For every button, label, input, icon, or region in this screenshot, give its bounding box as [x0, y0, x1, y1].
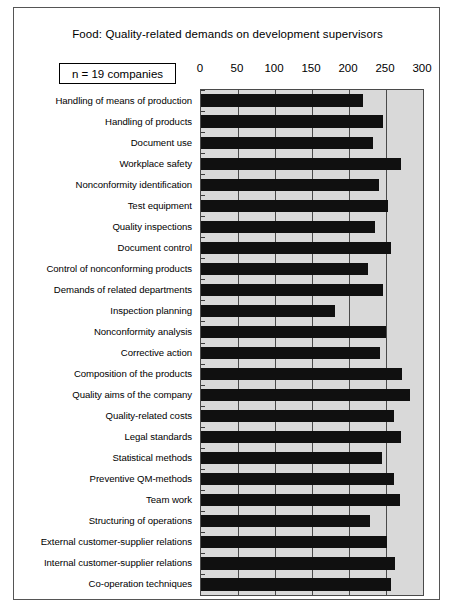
category-label: Statistical methods — [112, 452, 192, 463]
category-label: Inspection planning — [110, 304, 192, 315]
bar — [201, 431, 401, 443]
y-tick-mark — [201, 237, 205, 238]
category-label: Demands of related departments — [54, 283, 192, 294]
plot-area — [200, 89, 424, 596]
bar — [201, 200, 388, 212]
x-tick-label: 200 — [338, 62, 357, 74]
category-label: Nonconformity identification — [76, 178, 192, 189]
category-label: External customer-supplier relations — [41, 536, 192, 547]
bar — [201, 179, 379, 191]
y-tick-mark — [201, 343, 205, 344]
category-label: Team work — [146, 494, 192, 505]
y-tick-mark — [201, 321, 205, 322]
x-tick-label: 300 — [412, 62, 431, 74]
y-tick-mark — [201, 132, 205, 133]
x-tick-label: 0 — [197, 62, 203, 74]
x-tick-label: 100 — [264, 62, 283, 74]
y-tick-mark — [201, 427, 205, 428]
category-label: Document control — [118, 241, 192, 252]
category-label: Preventive QM-methods — [90, 473, 192, 484]
bar — [201, 326, 386, 338]
bar — [201, 242, 391, 254]
category-label: Handling of products — [105, 115, 192, 126]
bar — [201, 137, 373, 149]
bar — [201, 305, 335, 317]
bar — [201, 515, 370, 527]
bar — [201, 347, 380, 359]
bar — [201, 557, 395, 569]
bar — [201, 115, 383, 127]
category-label: Quality aims of the company — [72, 389, 192, 400]
category-label: Structuring of operations — [89, 515, 192, 526]
bar — [201, 94, 363, 106]
category-label: Internal customer-supplier relations — [44, 557, 192, 568]
y-tick-mark — [201, 406, 205, 407]
bar — [201, 389, 410, 401]
y-tick-mark — [201, 174, 205, 175]
category-label: Composition of the products — [74, 368, 192, 379]
y-tick-mark — [201, 448, 205, 449]
category-label: Nonconformity analysis — [94, 325, 192, 336]
y-tick-mark — [201, 195, 205, 196]
y-tick-mark — [201, 532, 205, 533]
bar — [201, 263, 368, 275]
y-tick-mark — [201, 553, 205, 554]
category-label: Quality-related costs — [106, 410, 192, 421]
y-tick-mark — [201, 385, 205, 386]
category-label: Quality inspections — [112, 220, 192, 231]
bar — [201, 473, 394, 485]
y-tick-mark — [201, 574, 205, 575]
x-axis-tick-labels: 050100150200250300 — [14, 62, 441, 84]
category-label: Co-operation techniques — [89, 578, 192, 589]
bar — [201, 578, 391, 590]
bar — [201, 452, 382, 464]
chart-title: Food: Quality-related demands on develop… — [14, 28, 441, 40]
category-label: Document use — [131, 136, 192, 147]
bar — [201, 368, 402, 380]
category-label: Corrective action — [121, 347, 192, 358]
bar — [201, 536, 387, 548]
y-axis-category-labels: Handling of means of productionHandling … — [14, 89, 196, 594]
bar — [201, 158, 401, 170]
y-tick-mark — [201, 153, 205, 154]
y-tick-mark — [201, 279, 205, 280]
bar — [201, 410, 394, 422]
bar — [201, 284, 383, 296]
category-label: Test equipment — [128, 199, 192, 210]
bar — [201, 221, 375, 233]
y-tick-mark — [201, 469, 205, 470]
x-tick-label: 50 — [231, 62, 244, 74]
y-tick-mark — [201, 300, 205, 301]
category-label: Control of nonconforming products — [46, 262, 192, 273]
category-label: Legal standards — [124, 431, 192, 442]
y-tick-mark — [201, 216, 205, 217]
y-tick-mark — [201, 111, 205, 112]
y-tick-mark — [201, 90, 205, 91]
x-tick-label: 150 — [301, 62, 320, 74]
category-label: Workplace safety — [119, 157, 192, 168]
y-tick-mark — [201, 490, 205, 491]
chart-figure: Food: Quality-related demands on develop… — [13, 7, 440, 600]
y-tick-mark — [201, 258, 205, 259]
bar — [201, 494, 400, 506]
category-label: Handling of means of production — [55, 94, 192, 105]
x-tick-label: 250 — [375, 62, 394, 74]
plot-wrapper: Handling of means of productionHandling … — [14, 82, 441, 594]
y-tick-mark — [201, 364, 205, 365]
y-tick-mark — [201, 511, 205, 512]
